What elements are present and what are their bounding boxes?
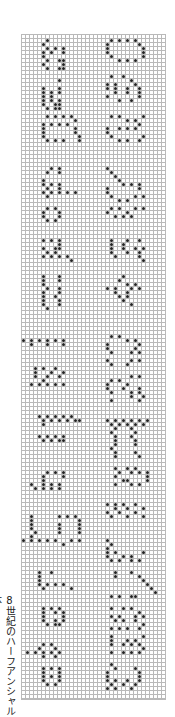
glyph-dot bbox=[54, 103, 57, 106]
glyph-dot bbox=[142, 207, 145, 210]
glyph-dot bbox=[58, 79, 61, 82]
glyph-dot bbox=[62, 543, 65, 546]
glyph-dot bbox=[106, 359, 109, 362]
glyph-dot bbox=[106, 287, 109, 290]
glyph-dot bbox=[42, 675, 45, 678]
glyph-dot bbox=[38, 339, 41, 342]
glyph-dot bbox=[146, 583, 149, 586]
glyph-dot bbox=[118, 127, 121, 130]
glyph-dot bbox=[142, 47, 145, 50]
glyph-dot bbox=[126, 251, 129, 254]
glyph-dot bbox=[42, 43, 45, 46]
glyph-dot bbox=[110, 447, 113, 450]
glyph-dot bbox=[114, 571, 117, 574]
glyph-dot bbox=[106, 679, 109, 682]
glyph-dot bbox=[122, 183, 125, 186]
glyph-dot bbox=[110, 115, 113, 118]
glyph-dot bbox=[58, 483, 61, 486]
glyph-dot bbox=[138, 375, 141, 378]
glyph-dot bbox=[110, 39, 113, 42]
glyph-dot bbox=[106, 551, 109, 554]
glyph-dot bbox=[62, 51, 65, 54]
glyph-dot bbox=[110, 239, 113, 242]
glyph-dot bbox=[106, 419, 109, 422]
glyph-dot bbox=[138, 251, 141, 254]
glyph-dot bbox=[54, 251, 57, 254]
glyph-dot bbox=[138, 679, 141, 682]
glyph-dot bbox=[42, 655, 45, 658]
glyph-dot bbox=[42, 299, 45, 302]
glyph-dot bbox=[46, 47, 49, 50]
glyph-dot bbox=[118, 39, 121, 42]
glyph-dot bbox=[126, 87, 129, 90]
glyph-dot bbox=[58, 671, 61, 674]
glyph-dot bbox=[126, 383, 129, 386]
glyph-dot bbox=[42, 63, 45, 66]
glyph-dot bbox=[58, 287, 61, 290]
glyph-dot bbox=[54, 295, 57, 298]
glyph-dot bbox=[114, 87, 117, 90]
glyph-dot bbox=[126, 119, 129, 122]
glyph-dot bbox=[138, 139, 141, 142]
glyph-dot bbox=[134, 639, 137, 642]
glyph-dot bbox=[66, 419, 69, 422]
glyph-dot bbox=[42, 667, 45, 670]
glyph-dot bbox=[42, 679, 45, 682]
glyph-dot bbox=[58, 171, 61, 174]
glyph-dot bbox=[54, 583, 57, 586]
glyph-dot bbox=[138, 471, 141, 474]
glyph-dot bbox=[130, 395, 133, 398]
glyph-dot bbox=[106, 555, 109, 558]
glyph-dot bbox=[54, 647, 57, 650]
glyph-dot bbox=[50, 123, 53, 126]
glyph-dot bbox=[106, 675, 109, 678]
glyph-dot bbox=[54, 247, 57, 250]
glyph-dot bbox=[66, 123, 69, 126]
glyph-dot bbox=[30, 515, 33, 518]
glyph-dot bbox=[106, 131, 109, 134]
glyph-dot bbox=[130, 471, 133, 474]
glyph-dot bbox=[154, 591, 157, 594]
glyph-dot bbox=[78, 531, 81, 534]
glyph-dot bbox=[42, 483, 45, 486]
glyph-dot bbox=[130, 375, 133, 378]
glyph-dot bbox=[58, 103, 61, 106]
glyph-dot bbox=[42, 487, 45, 490]
glyph-dot bbox=[142, 615, 145, 618]
glyph-dot bbox=[30, 535, 33, 538]
glyph-dot bbox=[106, 87, 109, 90]
glyph-dot bbox=[58, 239, 61, 242]
glyph-dot bbox=[138, 483, 141, 486]
glyph-dot bbox=[62, 371, 65, 374]
glyph-dot bbox=[106, 347, 109, 350]
glyph-dot bbox=[130, 215, 133, 218]
glyph-dot bbox=[134, 443, 137, 446]
glyph-dot bbox=[58, 531, 61, 534]
glyph-dot bbox=[126, 39, 129, 42]
glyph-dot bbox=[50, 91, 53, 94]
glyph-dot bbox=[114, 287, 117, 290]
glyph-dot bbox=[118, 379, 121, 382]
glyph-dot bbox=[46, 583, 49, 586]
glyph-dot bbox=[122, 503, 125, 506]
glyph-dot bbox=[134, 39, 137, 42]
glyph-dot bbox=[62, 415, 65, 418]
glyph-dot bbox=[38, 583, 41, 586]
glyph-dot bbox=[134, 59, 137, 62]
glyph-dot bbox=[50, 643, 53, 646]
glyph-dot bbox=[138, 343, 141, 346]
glyph-dot bbox=[110, 351, 113, 354]
glyph-dot bbox=[114, 435, 117, 438]
glyph-dot bbox=[130, 359, 133, 362]
glyph-dot bbox=[138, 351, 141, 354]
glyph-dot bbox=[42, 607, 45, 610]
glyph-dot bbox=[106, 539, 109, 542]
glyph-dot bbox=[142, 507, 145, 510]
glyph-dot bbox=[62, 115, 65, 118]
glyph-dot bbox=[74, 127, 77, 130]
glyph-dot bbox=[118, 335, 121, 338]
glyph-dot bbox=[110, 75, 113, 78]
glyph-dot bbox=[42, 211, 45, 214]
glyph-dot bbox=[110, 399, 113, 402]
glyph-dot bbox=[122, 607, 125, 610]
